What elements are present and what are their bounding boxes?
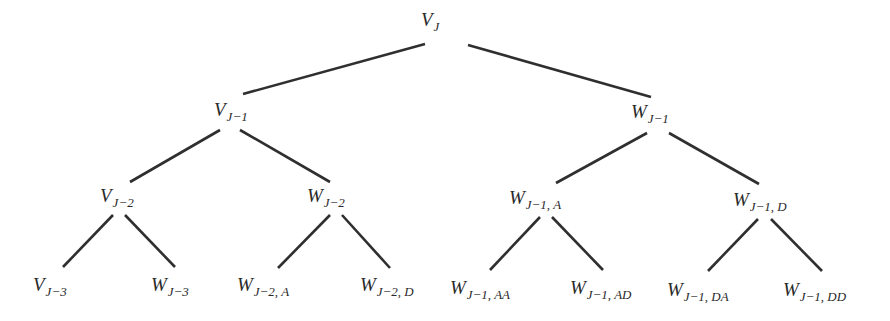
edge-wj1-wj1a [556, 133, 647, 183]
edge-wj2-wj2a [278, 215, 330, 268]
tree-edges [0, 0, 890, 321]
edge-wj1a-wj1ad [552, 217, 603, 270]
node-subscript: J−1, DA [684, 289, 729, 304]
node-subscript: J−1, D [750, 199, 787, 214]
node-base-symbol: V [33, 274, 45, 295]
node-subscript: J [434, 19, 440, 34]
tree-node-vj2: VJ−2 [100, 186, 134, 205]
node-subscript: J−1, AD [587, 287, 632, 302]
node-subscript: J−2 [113, 195, 134, 210]
tree-node-vj3: VJ−3 [33, 275, 67, 294]
node-base-symbol: W [450, 277, 466, 298]
tree-node-wj1a: WJ−1, A [509, 188, 561, 207]
node-base-symbol: W [570, 277, 586, 298]
node-subscript: J−1 [227, 109, 248, 124]
node-base-symbol: W [237, 274, 253, 295]
edge-vj1-vj2 [130, 130, 220, 182]
node-subscript: J−2, D [377, 284, 414, 299]
node-base-symbol: W [631, 101, 647, 122]
tree-node-wj2a: WJ−2, A [237, 275, 289, 294]
edge-vj1-wj2 [240, 130, 330, 182]
tree-node-wj2: WJ−2 [307, 186, 345, 205]
tree-node-wj1d: WJ−1, D [733, 190, 787, 209]
node-base-symbol: V [421, 9, 433, 30]
node-subscript: J−1, AA [467, 287, 510, 302]
node-base-symbol: W [667, 279, 683, 300]
node-base-symbol: W [151, 274, 167, 295]
tree-node-wj1ad: WJ−1, AD [570, 278, 631, 297]
node-base-symbol: W [307, 185, 323, 206]
edge-wj2-wj2d [342, 215, 390, 268]
tree-node-vj1: VJ−1 [214, 100, 248, 119]
tree-node-wj2d: WJ−2, D [360, 275, 414, 294]
node-subscript: J−3 [168, 284, 189, 299]
edge-vj-wj1 [468, 45, 651, 97]
edge-vj2-vj3 [63, 215, 113, 267]
edge-wj1a-wj1aa [490, 217, 540, 270]
tree-node-wj1dd: WJ−1, DD [783, 280, 846, 299]
node-subscript: J−3 [46, 284, 67, 299]
node-subscript: J−1, A [526, 197, 561, 212]
node-base-symbol: W [783, 279, 799, 300]
edge-wj1d-wj1da [708, 219, 758, 271]
tree-node-wj1: WJ−1 [631, 102, 669, 121]
edge-vj-vj1 [243, 44, 425, 94]
node-base-symbol: W [733, 189, 749, 210]
node-base-symbol: W [360, 274, 376, 295]
node-base-symbol: V [100, 185, 112, 206]
wavelet-tree-diagram: VJVJ−1WJ−1VJ−2WJ−2WJ−1, AWJ−1, DVJ−3WJ−3… [0, 0, 890, 321]
tree-node-wj1aa: WJ−1, AA [450, 278, 510, 297]
tree-node-wj1da: WJ−1, DA [667, 280, 729, 299]
node-subscript: J−2 [324, 195, 345, 210]
node-base-symbol: V [214, 99, 226, 120]
edge-vj2-wj3 [125, 215, 175, 267]
node-base-symbol: W [509, 187, 525, 208]
tree-node-wj3: WJ−3 [151, 275, 189, 294]
node-subscript: J−1 [648, 111, 669, 126]
edge-wj1-wj1d [669, 133, 759, 184]
edge-wj1d-wj1dd [771, 219, 822, 271]
node-subscript: J−2, A [254, 284, 289, 299]
tree-node-vj: VJ [421, 10, 439, 29]
node-subscript: J−1, DD [800, 289, 846, 304]
